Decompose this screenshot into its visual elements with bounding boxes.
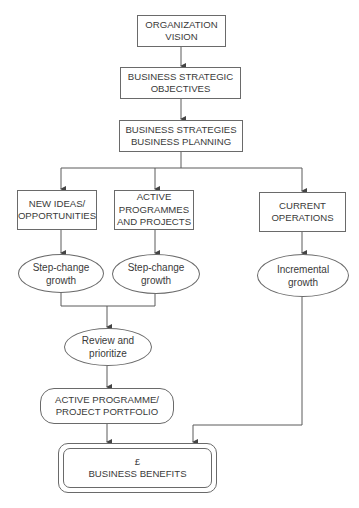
node-business-strategic-objectives: BUSINESS STRATEGIC OBJECTIVES [120,67,241,99]
node-label: £ BUSINESS BENEFITS [88,456,186,481]
node-active-portfolio: ACTIVE PROGRAMME/ PROJECT PORTFOLIO [40,388,174,424]
node-organization-vision: ORGANIZATION VISION [137,15,226,47]
node-label: ACTIVE PROGRAMMES AND PROJECTS [117,191,191,229]
node-review-prioritize: Review and prioritize [64,328,152,366]
node-label: BUSINESS STRATEGIES BUSINESS PLANNING [125,124,236,149]
node-label: ACTIVE PROGRAMME/ PROJECT PORTFOLIO [55,394,159,419]
node-business-benefits: £ BUSINESS BENEFITS [58,443,217,493]
node-label: CURRENT OPERATIONS [271,200,333,225]
node-label: Review and prioritize [82,334,134,360]
node-label: Step-change growth [33,261,90,287]
node-inner-border: £ BUSINESS BENEFITS [63,448,212,488]
node-label: NEW IDEAS/ OPPORTUNITIES [18,198,96,223]
node-label: ORGANIZATION VISION [145,19,217,44]
node-label: Step-change growth [128,261,185,287]
node-active-programmes: ACTIVE PROGRAMMES AND PROJECTS [114,190,194,230]
node-label: BUSINESS STRATEGIC OBJECTIVES [128,71,233,96]
node-business-strategies-planning: BUSINESS STRATEGIES BUSINESS PLANNING [119,120,243,152]
node-step-change-growth-1: Step-change growth [18,254,104,293]
node-incremental-growth: Incremental growth [257,254,349,297]
node-label: Incremental growth [277,263,329,289]
node-current-operations: CURRENT OPERATIONS [259,192,346,232]
node-new-ideas: NEW IDEAS/ OPPORTUNITIES [17,190,97,230]
node-step-change-growth-2: Step-change growth [112,254,200,294]
